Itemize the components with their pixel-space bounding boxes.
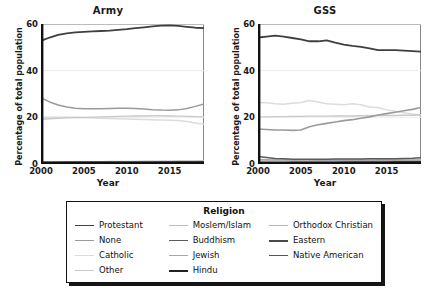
legend-label: Jewish bbox=[193, 251, 220, 260]
legend-label: Other bbox=[99, 266, 123, 275]
plot-area-gss bbox=[258, 24, 421, 164]
x-axis-ticks-army: 2000200520102015 bbox=[41, 166, 204, 178]
legend-swatch-line-icon bbox=[169, 270, 188, 272]
x-tick-label: 2005 bbox=[289, 166, 313, 176]
legend-column: Moslem/IslamBuddhismJewishHindu bbox=[169, 219, 269, 277]
legend-item[interactable]: Catholic bbox=[75, 249, 169, 262]
chart-title-gss: GSS bbox=[217, 5, 433, 16]
y-tick-label: 60 bbox=[26, 20, 38, 29]
legend-swatch-line-icon bbox=[75, 255, 94, 256]
y-tick-label: 20 bbox=[26, 113, 38, 122]
legend-label: Hindu bbox=[193, 266, 218, 275]
legend-label: Moslem/Islam bbox=[193, 221, 251, 230]
legend-label: Protestant bbox=[99, 221, 143, 230]
legend-item[interactable]: Protestant bbox=[75, 219, 169, 232]
y-tick-label: 60 bbox=[243, 20, 255, 29]
legend-label: None bbox=[99, 236, 121, 245]
legend-swatch-line-icon bbox=[169, 240, 188, 241]
legend-swatch-line-icon bbox=[75, 270, 94, 271]
legend-item[interactable]: Native American bbox=[269, 249, 373, 262]
y-tick-label: 20 bbox=[243, 113, 255, 122]
legend-column: ProtestantNoneCatholicOther bbox=[75, 219, 169, 277]
legend-item[interactable]: Jewish bbox=[169, 249, 269, 262]
legend-swatch-line-icon bbox=[269, 240, 288, 242]
legend-swatch-line-icon bbox=[269, 255, 288, 256]
legend-item[interactable]: Buddhism bbox=[169, 234, 269, 247]
legend-column: Orthodox ChristianEasternNative American bbox=[269, 219, 373, 277]
x-tick-label: 2015 bbox=[375, 166, 399, 176]
legend-swatch-line-icon bbox=[169, 225, 188, 226]
y-axis-ticks-gss: 0204060 bbox=[231, 24, 255, 164]
x-axis-label-army: Year bbox=[0, 178, 216, 188]
legend-columns: ProtestantNoneCatholicOtherMoslem/IslamB… bbox=[67, 219, 381, 277]
plot-svg-gss bbox=[258, 24, 421, 164]
legend-swatch-line-icon bbox=[75, 225, 94, 226]
figure-root: Army Percentage of total population 0204… bbox=[0, 0, 433, 292]
y-tick-label: 40 bbox=[243, 67, 255, 76]
legend: Religion ProtestantNoneCatholicOtherMosl… bbox=[66, 201, 382, 283]
legend-item[interactable]: Orthodox Christian bbox=[269, 219, 373, 232]
legend-item[interactable]: Other bbox=[75, 264, 169, 277]
legend-swatch-line-icon bbox=[75, 240, 94, 241]
x-tick-label: 2000 bbox=[246, 166, 270, 176]
x-tick-label: 2015 bbox=[158, 166, 182, 176]
x-tick-label: 2000 bbox=[29, 166, 53, 176]
chart-panels: Army Percentage of total population 0204… bbox=[0, 0, 433, 196]
x-tick-label: 2005 bbox=[72, 166, 96, 176]
chart-title-army: Army bbox=[0, 5, 216, 16]
plot-frame bbox=[259, 25, 421, 164]
legend-label: Eastern bbox=[293, 236, 325, 245]
plot-frame bbox=[42, 25, 204, 164]
legend-item[interactable]: Eastern bbox=[269, 234, 373, 247]
legend-item[interactable]: Hindu bbox=[169, 264, 269, 277]
x-tick-label: 2010 bbox=[332, 166, 356, 176]
legend-title: Religion bbox=[67, 206, 381, 216]
chart-panel-gss: GSS Percentage of total population 02040… bbox=[217, 0, 433, 196]
y-axis-ticks-army: 0204060 bbox=[14, 24, 38, 164]
legend-label: Orthodox Christian bbox=[293, 221, 373, 230]
x-tick-label: 2010 bbox=[115, 166, 139, 176]
plot-svg-army bbox=[41, 24, 204, 164]
legend-swatch-line-icon bbox=[269, 225, 288, 226]
legend-label: Native American bbox=[293, 251, 364, 260]
legend-item[interactable]: None bbox=[75, 234, 169, 247]
legend-item[interactable]: Moslem/Islam bbox=[169, 219, 269, 232]
legend-swatch-line-icon bbox=[169, 255, 188, 256]
y-tick-label: 40 bbox=[26, 67, 38, 76]
x-axis-ticks-gss: 2000200520102015 bbox=[258, 166, 421, 178]
chart-panel-army: Army Percentage of total population 0204… bbox=[0, 0, 216, 196]
legend-label: Buddhism bbox=[193, 236, 235, 245]
legend-label: Catholic bbox=[99, 251, 133, 260]
plot-area-army bbox=[41, 24, 204, 164]
x-axis-label-gss: Year bbox=[217, 178, 433, 188]
